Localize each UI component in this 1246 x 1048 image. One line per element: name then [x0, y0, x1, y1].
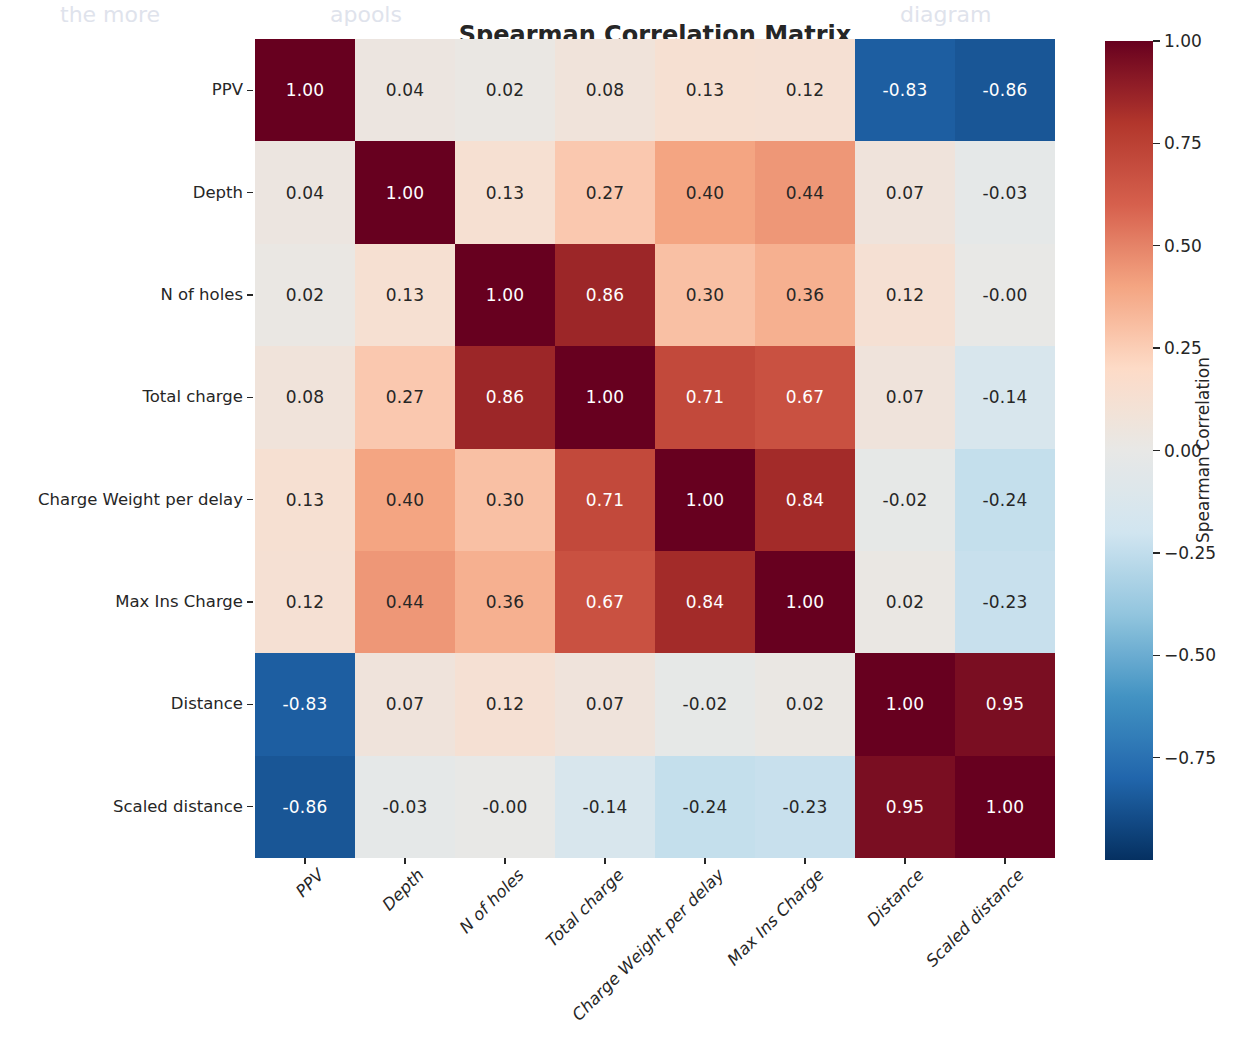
heatmap-cell: -0.00 — [455, 756, 555, 858]
colorbar-tick-label: 0.25 — [1164, 338, 1202, 358]
heatmap-cell: -0.02 — [855, 449, 955, 551]
y-axis-tick-label: Max Ins Charge — [0, 592, 243, 612]
heatmap-cell-value: 0.12 — [286, 592, 325, 612]
heatmap-cell: -0.03 — [955, 141, 1055, 243]
heatmap-cell-value: 0.02 — [486, 80, 525, 100]
heatmap-cell-value: 1.00 — [486, 285, 525, 305]
colorbar-tick-mark — [1153, 655, 1160, 656]
heatmap-cell-value: 0.30 — [686, 285, 725, 305]
colorbar-tick-mark — [1153, 143, 1160, 144]
colorbar-tick-label: −0.50 — [1164, 645, 1216, 665]
heatmap-cell: 0.95 — [955, 653, 1055, 755]
y-axis-tick-label: N of holes — [0, 285, 243, 305]
heatmap-cell: -0.24 — [655, 756, 755, 858]
heatmap-cell: 0.44 — [755, 141, 855, 243]
y-axis-tick-mark — [247, 294, 253, 295]
y-axis-tick-mark — [247, 601, 253, 602]
y-axis-tick-label: PPV — [0, 80, 243, 100]
heatmap-cell: 0.12 — [855, 244, 955, 346]
heatmap-cell: 0.13 — [255, 449, 355, 551]
heatmap-cell-value: 0.36 — [486, 592, 525, 612]
heatmap-cell-value: 0.13 — [286, 490, 325, 510]
heatmap-cell: 0.07 — [555, 653, 655, 755]
heatmap-cell-value: -0.83 — [883, 80, 928, 100]
x-axis-tick-label: Depth — [379, 866, 427, 914]
heatmap-cell-value: 1.00 — [286, 80, 325, 100]
heatmap-cell: -0.03 — [355, 756, 455, 858]
heatmap-cell: 0.27 — [355, 346, 455, 448]
x-axis-tick-label: Scaled distance — [923, 866, 1028, 971]
heatmap-cell-value: -0.23 — [783, 797, 828, 817]
heatmap-cell: 0.67 — [755, 346, 855, 448]
heatmap-cell: -0.23 — [955, 551, 1055, 653]
heatmap-cell-value: 0.71 — [686, 387, 725, 407]
heatmap-cell: 0.13 — [455, 141, 555, 243]
heatmap-cell-value: 0.86 — [486, 387, 525, 407]
heatmap-cell-value: -0.00 — [483, 797, 528, 817]
heatmap-grid: 1.000.040.020.080.130.12-0.83-0.860.041.… — [255, 39, 1055, 858]
heatmap-cell: 0.04 — [255, 141, 355, 243]
x-axis-tick-mark — [504, 858, 505, 864]
colorbar-tick-label: 0.75 — [1164, 133, 1202, 153]
heatmap-cell-value: 0.30 — [486, 490, 525, 510]
heatmap-cell-value: 0.71 — [586, 490, 625, 510]
colorbar-gradient — [1105, 41, 1153, 860]
heatmap-cell: 0.02 — [455, 39, 555, 141]
heatmap-cell: 1.00 — [355, 141, 455, 243]
heatmap-cell: -0.23 — [755, 756, 855, 858]
colorbar-tick-mark — [1153, 347, 1160, 348]
heatmap-cell: -0.14 — [555, 756, 655, 858]
heatmap-cell: 0.12 — [455, 653, 555, 755]
x-axis-tick-label: Distance — [864, 866, 928, 930]
y-axis-tick-label: Depth — [0, 183, 243, 203]
heatmap-cell-value: -0.00 — [983, 285, 1028, 305]
correlation-matrix-figure: the more apools diagram Spearman Correla… — [0, 0, 1246, 1048]
heatmap-cell: 1.00 — [255, 39, 355, 141]
heatmap-cell: 0.44 — [355, 551, 455, 653]
heatmap-cell-value: 0.13 — [486, 183, 525, 203]
heatmap-cell: 0.07 — [855, 346, 955, 448]
heatmap-cell: 0.36 — [755, 244, 855, 346]
y-axis-tick-mark — [247, 192, 253, 193]
heatmap-cell-value: -0.86 — [283, 797, 328, 817]
x-axis-tick-mark — [804, 858, 805, 864]
heatmap-cell: 0.36 — [455, 551, 555, 653]
heatmap-cell: 1.00 — [455, 244, 555, 346]
x-axis-tick-mark — [704, 858, 705, 864]
heatmap-cell-value: 0.02 — [286, 285, 325, 305]
colorbar-tick-mark — [1153, 757, 1160, 758]
heatmap-cell: 0.02 — [855, 551, 955, 653]
heatmap-cell-value: 0.67 — [786, 387, 825, 407]
heatmap-cell: 0.71 — [555, 449, 655, 551]
colorbar-tick-mark — [1153, 40, 1160, 41]
heatmap-cell-value: 0.84 — [686, 592, 725, 612]
colorbar-axis-label: Spearman Correlation — [1193, 357, 1213, 543]
y-axis-tick-label: Distance — [0, 694, 243, 714]
heatmap-cell-value: 0.02 — [886, 592, 925, 612]
heatmap-cell-value: 0.07 — [886, 183, 925, 203]
heatmap-cell-value: 0.27 — [586, 183, 625, 203]
x-axis-tick-mark — [904, 858, 905, 864]
heatmap-cell: 0.13 — [355, 244, 455, 346]
heatmap-cell-value: 0.86 — [586, 285, 625, 305]
heatmap-cell: -0.02 — [655, 653, 755, 755]
y-axis-ticks — [247, 39, 255, 858]
heatmap-cell: 1.00 — [755, 551, 855, 653]
heatmap-cell: 0.86 — [555, 244, 655, 346]
heatmap-cell-value: 0.12 — [886, 285, 925, 305]
heatmap-cell: -0.86 — [955, 39, 1055, 141]
heatmap-cell: 0.07 — [355, 653, 455, 755]
y-axis-tick-mark — [247, 397, 253, 398]
heatmap-cell-value: -0.03 — [983, 183, 1028, 203]
heatmap-cell-value: 0.07 — [386, 694, 425, 714]
heatmap-cell-value: 0.40 — [686, 183, 725, 203]
heatmap-cell: -0.00 — [955, 244, 1055, 346]
heatmap-cell-value: 1.00 — [386, 183, 425, 203]
heatmap-cell-value: -0.24 — [683, 797, 728, 817]
heatmap-cell: 0.07 — [855, 141, 955, 243]
heatmap-cell-value: -0.86 — [983, 80, 1028, 100]
colorbar-tick-label: −0.75 — [1164, 748, 1216, 768]
x-axis-ticks — [255, 858, 1055, 866]
heatmap-cell: -0.83 — [855, 39, 955, 141]
colorbar-tick-label: 0.50 — [1164, 236, 1202, 256]
